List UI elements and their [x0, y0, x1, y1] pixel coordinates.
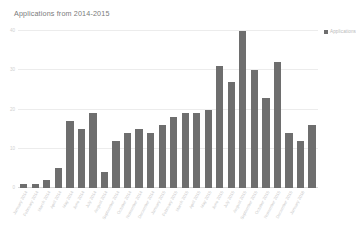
bar[interactable]: [205, 110, 212, 189]
bar[interactable]: [182, 113, 189, 188]
bar[interactable]: [170, 117, 177, 188]
bar-slot: [76, 31, 88, 188]
bar[interactable]: [20, 184, 27, 188]
bar[interactable]: [66, 121, 73, 188]
bar-slot: [214, 31, 226, 188]
bar-slot: [64, 31, 76, 188]
bar-slot: [272, 31, 284, 188]
y-axis-tick-20: 20: [10, 106, 15, 111]
bar[interactable]: [55, 168, 62, 188]
y-axis-tick-0: 0: [12, 185, 15, 190]
bar[interactable]: [297, 141, 304, 188]
legend-swatch-applications: [324, 30, 328, 34]
bar-slot: [53, 31, 65, 188]
bar-slot: [30, 31, 42, 188]
chart-legend: Applications: [324, 29, 356, 34]
bar-slot: [295, 31, 307, 188]
bar[interactable]: [216, 66, 223, 188]
bar-slot: [260, 31, 272, 188]
bar[interactable]: [228, 82, 235, 188]
bar[interactable]: [101, 172, 108, 188]
bar[interactable]: [147, 133, 154, 188]
bar-slot: [122, 31, 134, 188]
bar-slot: [283, 31, 295, 188]
bar-slot: [87, 31, 99, 188]
y-axis-tick-40: 40: [10, 28, 15, 33]
bar-slot: [145, 31, 157, 188]
bar-slot: [168, 31, 180, 188]
chart-title: Applications from 2014-2015: [14, 9, 110, 18]
legend-label-applications: Applications: [330, 29, 356, 34]
bar[interactable]: [124, 133, 131, 188]
chart-card: Applications from 2014-2015 Applications…: [0, 0, 358, 225]
bar-slot: [237, 31, 249, 188]
bar-slot: [203, 31, 215, 188]
x-axis-labels: January 2014February 2014March 2014April…: [18, 189, 318, 223]
bar[interactable]: [285, 133, 292, 188]
bar[interactable]: [274, 62, 281, 188]
bar[interactable]: [251, 70, 258, 188]
plot-area: 010203040: [18, 31, 318, 188]
bar-slot: [156, 31, 168, 188]
x-label-slot: [306, 189, 318, 223]
bar-slot: [110, 31, 122, 188]
bar-slot: [191, 31, 203, 188]
bar-slot: [41, 31, 53, 188]
bar[interactable]: [112, 141, 119, 188]
bar[interactable]: [159, 125, 166, 188]
bar[interactable]: [308, 125, 315, 188]
y-axis-tick-30: 30: [10, 67, 15, 72]
bar[interactable]: [78, 129, 85, 188]
bar-series: [18, 31, 318, 188]
x-label-slot: January 2016: [295, 189, 307, 223]
bar[interactable]: [89, 113, 96, 188]
bar[interactable]: [32, 184, 39, 188]
bar[interactable]: [193, 113, 200, 188]
bar-slot: [249, 31, 261, 188]
bar[interactable]: [43, 180, 50, 188]
bar-slot: [133, 31, 145, 188]
bar-slot: [18, 31, 30, 188]
bar[interactable]: [135, 129, 142, 188]
bar-slot: [179, 31, 191, 188]
bar[interactable]: [239, 31, 246, 188]
bar-slot: [306, 31, 318, 188]
bar[interactable]: [262, 98, 269, 188]
y-axis-tick-10: 10: [10, 145, 15, 150]
bar-slot: [226, 31, 238, 188]
bar-slot: [99, 31, 111, 188]
